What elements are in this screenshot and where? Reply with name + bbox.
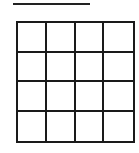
grid-cell [104, 82, 133, 112]
grid-cell [47, 23, 76, 53]
title-underline [13, 3, 90, 5]
grid-cell [76, 112, 105, 142]
grid-cell [47, 82, 76, 112]
grid-cell [47, 112, 76, 142]
grid-cell [18, 23, 47, 53]
grid-cell [18, 82, 47, 112]
grid-cell [104, 53, 133, 83]
grid-cell [18, 112, 47, 142]
grid-4x4 [16, 21, 135, 143]
grid-cell [18, 53, 47, 83]
grid-cell [76, 82, 105, 112]
grid-cell [104, 23, 133, 53]
grid-cell [76, 23, 105, 53]
grid-cell [76, 53, 105, 83]
grid-cell [104, 112, 133, 142]
grid-cell [47, 53, 76, 83]
